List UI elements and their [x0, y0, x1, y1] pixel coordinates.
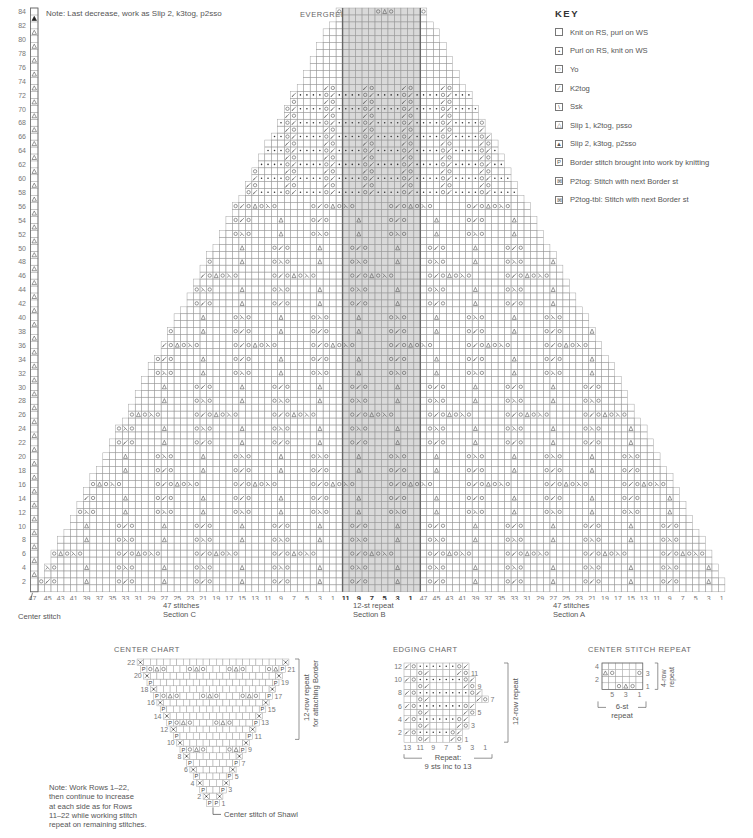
key-item-p2tog-tbl: ⊠P2tog-tbl: Stitch with next Border st [555, 190, 753, 209]
svg-text:26: 26 [18, 411, 26, 418]
svg-text:33: 33 [510, 595, 518, 600]
section-c-name: Section C [163, 610, 199, 619]
svg-text:7: 7 [444, 744, 448, 751]
svg-text:78: 78 [18, 50, 26, 57]
svg-text:17: 17 [225, 595, 233, 600]
svg-text:6: 6 [184, 766, 188, 773]
key-item-label: Border stitch brought into work by knitt… [570, 158, 709, 167]
svg-text:80: 80 [18, 36, 26, 43]
svg-text:9: 9 [431, 744, 435, 751]
sk2p-icon: △ [555, 121, 563, 129]
svg-text:19: 19 [212, 595, 220, 600]
key-item-border: PBorder stitch brought into work by knit… [555, 153, 753, 172]
svg-text:12: 12 [160, 726, 168, 733]
key-panel: KEY Knit on RS, purl on WS•Purl on RS, k… [555, 8, 753, 209]
svg-text:47: 47 [420, 595, 428, 600]
svg-text:7: 7 [292, 595, 296, 600]
svg-text:13: 13 [261, 719, 269, 726]
svg-text:Repeat:: Repeat: [435, 753, 462, 762]
svg-text:10: 10 [18, 523, 26, 530]
key-item-label: Slip 2, k3tog, p2sso [570, 139, 636, 148]
center-stitch-repeat-chart: 42315314-rowrepeat6-strepeat [580, 655, 753, 755]
section-c-count: 47 stitches [163, 601, 199, 610]
svg-text:9: 9 [668, 595, 672, 600]
svg-text:62: 62 [18, 161, 26, 168]
svg-text:29: 29 [148, 595, 156, 600]
svg-text:8: 8 [398, 689, 402, 696]
section-b-count: 12-st repeat [353, 601, 394, 610]
svg-text:45: 45 [44, 595, 52, 600]
section-a-label: 47 stitches Section A [553, 601, 589, 619]
svg-text:9: 9 [248, 746, 252, 753]
svg-text:9 sts inc to 13: 9 sts inc to 13 [425, 762, 472, 771]
svg-text:17: 17 [274, 693, 282, 700]
note-line: at each side as for Rows [49, 802, 147, 811]
svg-text:for attaching Border: for attaching Border [311, 660, 320, 727]
svg-text:P: P [247, 733, 251, 739]
svg-text:28: 28 [18, 397, 26, 404]
svg-text:P: P [261, 706, 265, 712]
svg-text:P: P [267, 693, 271, 699]
section-c-label: 47 stitches Section C [163, 601, 199, 619]
svg-text:P: P [168, 720, 172, 726]
key-item-p2tog: ⊠P2tog: Stitch with next Border st [555, 172, 753, 191]
svg-text:P: P [234, 760, 238, 766]
svg-text:13: 13 [640, 595, 648, 600]
svg-text:23: 23 [575, 595, 583, 600]
svg-text:29: 29 [536, 595, 544, 600]
svg-text:11: 11 [417, 744, 424, 751]
svg-text:13: 13 [251, 595, 259, 600]
svg-text:4: 4 [22, 564, 26, 571]
svg-text:12-row repeat: 12-row repeat [511, 677, 520, 725]
svg-text:84: 84 [18, 8, 26, 15]
svg-text:4-row: 4-row [660, 669, 667, 687]
svg-text:3: 3 [228, 786, 232, 793]
svg-text:36: 36 [18, 342, 26, 349]
svg-text:30: 30 [18, 384, 26, 391]
p2tog-icon: ⊠ [555, 177, 563, 185]
svg-text:14: 14 [18, 495, 26, 502]
svg-text:39: 39 [472, 595, 480, 600]
svg-text:50: 50 [18, 245, 26, 252]
center-chart-title: CENTER CHART [114, 645, 180, 654]
note-line: 11–22 while working stitch [49, 811, 147, 820]
svg-text:P: P [241, 747, 245, 753]
svg-text:70: 70 [18, 106, 26, 113]
knit-icon [555, 28, 563, 36]
svg-text:37: 37 [96, 595, 104, 600]
svg-text:44: 44 [18, 286, 26, 293]
svg-text:P: P [175, 733, 179, 739]
svg-text:4: 4 [191, 780, 195, 787]
svg-text:5: 5 [478, 709, 482, 716]
svg-text:2: 2 [197, 793, 201, 800]
svg-text:7: 7 [681, 595, 685, 600]
svg-text:35: 35 [109, 595, 117, 600]
svg-text:34: 34 [18, 356, 26, 363]
svg-text:19: 19 [601, 595, 609, 600]
svg-text:37: 37 [484, 595, 492, 600]
svg-text:21: 21 [588, 595, 596, 600]
svg-text:68: 68 [18, 119, 26, 126]
key-item-label: P2tog: Stitch with next Border st [570, 177, 678, 186]
svg-text:1: 1 [331, 595, 335, 600]
svg-text:5: 5 [383, 594, 387, 600]
k2tog-icon: ⁄ [555, 84, 563, 92]
purl-icon: • [555, 47, 563, 55]
svg-text:6: 6 [22, 550, 26, 557]
svg-text:21: 21 [288, 666, 296, 673]
svg-text:66: 66 [18, 133, 26, 140]
svg-text:13: 13 [403, 744, 411, 751]
svg-text:42: 42 [18, 300, 26, 307]
svg-text:15: 15 [627, 595, 635, 600]
svg-text:43: 43 [446, 595, 454, 600]
yo-icon: ○ [555, 65, 563, 73]
svg-text:10: 10 [394, 676, 402, 683]
svg-text:3: 3 [624, 691, 628, 698]
svg-text:P: P [228, 773, 232, 779]
svg-text:16: 16 [18, 481, 26, 488]
svg-text:41: 41 [70, 595, 78, 600]
svg-text:35: 35 [497, 595, 505, 600]
border-icon: P [555, 158, 563, 166]
svg-text:8: 8 [22, 536, 26, 543]
svg-text:1: 1 [222, 800, 226, 807]
